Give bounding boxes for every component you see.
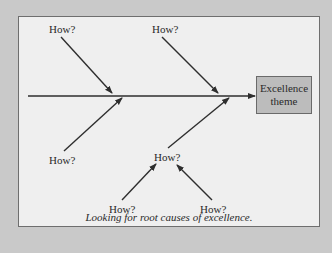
- diagram-caption: Looking for root causes of excellence.: [18, 211, 320, 223]
- label-how-bottom-middle: How?: [154, 151, 180, 163]
- bone-top-left: [61, 37, 112, 93]
- label-how-top-left: How?: [49, 23, 75, 35]
- label-how-top-right: How?: [152, 23, 178, 35]
- bone-bottom-left: [64, 98, 122, 151]
- label-how-bottom-left: How?: [49, 154, 75, 166]
- effect-box: Excellence theme: [256, 76, 312, 114]
- bone-top-right: [162, 37, 218, 93]
- sub-bone-right: [177, 165, 212, 200]
- sub-bone-left: [122, 164, 156, 200]
- effect-box-line1: Excellence: [260, 82, 308, 95]
- bone-bottom-middle: [168, 98, 229, 148]
- effect-box-line2: theme: [260, 95, 308, 108]
